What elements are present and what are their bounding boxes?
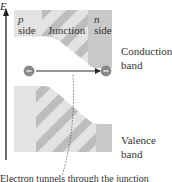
conduction-band-label-1: Conduction: [121, 45, 172, 57]
caption: Electron tunnels through the junction: [0, 173, 149, 182]
n-side-word: side: [94, 24, 112, 36]
junction-label: Junction: [48, 24, 85, 36]
conduction-band-label-2: band: [121, 59, 142, 71]
energy-axis: [3, 8, 9, 160]
valence-band-label-2: band: [121, 148, 142, 160]
electron-left: [24, 66, 34, 76]
electron-right: [101, 66, 111, 76]
valence-band-label-1: Valence: [121, 134, 156, 146]
p-side-word: side: [18, 24, 36, 36]
valence-band: [14, 86, 112, 152]
energy-axis-label: E: [0, 0, 7, 12]
